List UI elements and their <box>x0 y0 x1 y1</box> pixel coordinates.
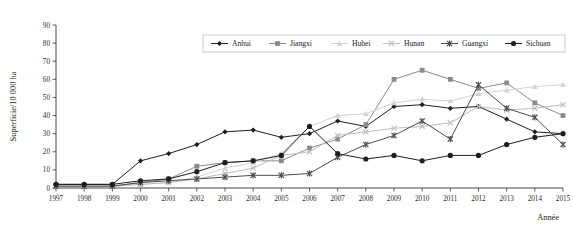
y-tick-label: 70 <box>43 58 51 66</box>
marker-circle <box>363 156 368 161</box>
marker-circle <box>560 131 565 136</box>
marker-asterisk <box>560 141 565 147</box>
marker-circle <box>53 182 58 187</box>
marker-circle <box>504 142 509 147</box>
x-tick-label: 2005 <box>274 195 289 203</box>
line-chart: 0102030405060708090199719981999200020012… <box>0 0 573 228</box>
marker-circle <box>82 182 87 187</box>
x-tick-label: 2009 <box>387 195 402 203</box>
marker-diamond <box>307 131 312 136</box>
marker-circle <box>448 153 453 158</box>
marker-diamond <box>532 129 537 134</box>
y-tick-label: 50 <box>43 94 51 102</box>
y-tick-label: 10 <box>43 166 51 174</box>
legend-item-label: Jiangxi <box>290 39 312 48</box>
y-axis-title: Superficie/10 000 ha <box>9 71 18 141</box>
y-tick-label: 30 <box>43 130 51 138</box>
y-tick-label: 20 <box>43 148 51 156</box>
marker-square <box>532 100 537 105</box>
marker-asterisk <box>363 141 368 147</box>
marker-diamond <box>166 151 171 156</box>
marker-circle <box>532 135 537 140</box>
marker-square <box>420 68 425 73</box>
x-tick-label: 1999 <box>105 195 120 203</box>
x-tick-label: 2007 <box>330 195 345 203</box>
legend-item-label: Sichuan <box>526 39 551 48</box>
x-tick-label: 2003 <box>218 195 233 203</box>
marker-diamond <box>279 135 284 140</box>
marker-circle <box>420 158 425 163</box>
x-tick-label: 1998 <box>77 195 92 203</box>
x-tick-label: 2000 <box>133 195 148 203</box>
y-tick-label: 0 <box>46 185 50 193</box>
x-tick-label: 2015 <box>556 195 571 203</box>
marker-circle <box>222 160 227 165</box>
x-tick-label: 2004 <box>246 195 261 203</box>
marker-square <box>448 77 453 82</box>
legend-item-label: Hunan <box>404 39 424 48</box>
x-tick-label: 2001 <box>161 195 176 203</box>
legend-item-label: Anhui <box>232 39 251 48</box>
legend-item-label: Guangxi <box>462 39 488 48</box>
marker-square <box>363 122 368 127</box>
x-tick-label: 2002 <box>190 195 205 203</box>
x-tick-label: 2011 <box>443 195 458 203</box>
marker-asterisk <box>476 82 481 88</box>
marker-asterisk <box>532 114 537 120</box>
marker-circle <box>307 124 312 129</box>
marker-circle <box>138 178 143 183</box>
marker-circle <box>166 176 171 181</box>
marker-circle <box>476 153 481 158</box>
legend-item-label: Hubei <box>352 39 371 48</box>
marker-circle <box>391 153 396 158</box>
x-tick-label: 2014 <box>528 195 543 203</box>
marker-diamond <box>194 142 199 147</box>
marker-square <box>279 158 284 163</box>
x-axis-title: Année <box>537 213 559 222</box>
chart-container: 0102030405060708090199719981999200020012… <box>0 0 573 228</box>
marker-square <box>504 81 509 86</box>
marker-diamond <box>222 129 227 134</box>
chart-legend: AnhuiJiangxiHubeiHunanGuangxiSichuan <box>203 35 565 52</box>
y-tick-label: 90 <box>43 22 51 30</box>
x-tick-label: 2010 <box>415 195 430 203</box>
marker-diamond <box>420 102 425 107</box>
marker-circle <box>110 182 115 187</box>
marker-square <box>275 41 280 46</box>
marker-diamond <box>504 117 509 122</box>
marker-circle <box>511 41 516 46</box>
marker-diamond <box>448 106 453 111</box>
x-tick-label: 2008 <box>359 195 374 203</box>
marker-circle <box>335 151 340 156</box>
marker-diamond <box>335 118 340 123</box>
y-tick-label: 60 <box>43 76 51 84</box>
y-tick-label: 80 <box>43 40 51 48</box>
marker-square <box>392 77 397 82</box>
marker-circle <box>194 169 199 174</box>
marker-asterisk <box>420 118 425 124</box>
marker-circle <box>279 153 284 158</box>
marker-circle <box>251 158 256 163</box>
marker-diamond <box>251 127 256 132</box>
x-tick-label: 2013 <box>499 195 514 203</box>
marker-asterisk <box>448 136 453 142</box>
x-tick-label: 2012 <box>471 195 486 203</box>
marker-square <box>194 164 199 169</box>
marker-square <box>561 113 566 118</box>
marker-asterisk <box>391 132 396 138</box>
x-tick-label: 2006 <box>302 195 317 203</box>
y-tick-label: 40 <box>43 112 51 120</box>
x-tick-label: 1997 <box>49 195 64 203</box>
